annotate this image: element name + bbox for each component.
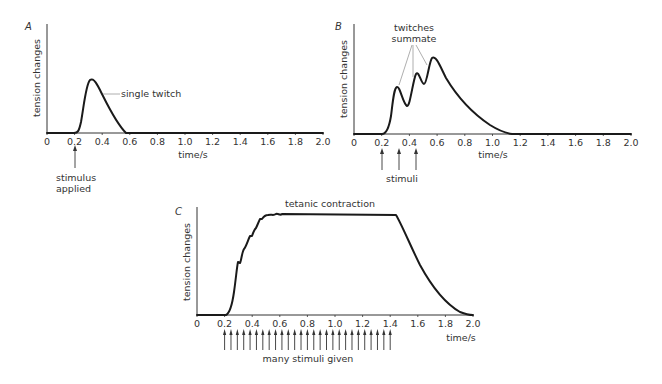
panel-b-stimulus-arrows bbox=[380, 148, 418, 170]
x-tick-label: 1.2 bbox=[205, 136, 220, 147]
x-tick-label: 2.0 bbox=[623, 137, 638, 148]
panel-b-xlabel: time/s bbox=[478, 149, 508, 160]
x-tick-label: 0.8 bbox=[457, 137, 472, 148]
x-tick-label: 1.0 bbox=[485, 137, 500, 148]
panel-c-ylabel: tension changes bbox=[181, 223, 192, 301]
panel-a-stim-label-2: applied bbox=[56, 183, 91, 194]
panel-c-label: C bbox=[175, 206, 182, 217]
panel-c-tetanic-curve bbox=[197, 214, 473, 315]
panel-b-leader-1 bbox=[399, 45, 412, 85]
panel-b-label: B bbox=[335, 21, 342, 32]
panel-c-axes bbox=[197, 207, 473, 315]
panel-a: A tension changes 00.20.40.60.81.01.21.4… bbox=[24, 21, 331, 194]
panel-c-stimulus-arrows bbox=[223, 329, 392, 350]
x-tick-label: 1.4 bbox=[383, 318, 398, 329]
panel-a-annotation: single twitch bbox=[121, 88, 181, 99]
panel-b-xticks: 00.20.40.60.81.01.21.41.61.82.0 bbox=[351, 134, 639, 148]
panel-b-annotation-1: twitches bbox=[394, 22, 434, 33]
x-tick-label: 1.4 bbox=[233, 136, 248, 147]
x-tick-label: 0.4 bbox=[245, 318, 260, 329]
x-tick-label: 0.4 bbox=[95, 136, 110, 147]
x-tick-label: 0.2 bbox=[374, 137, 389, 148]
x-tick-label: 1.0 bbox=[177, 136, 192, 147]
x-tick-label: 0.6 bbox=[430, 137, 445, 148]
x-tick-label: 0.2 bbox=[217, 318, 232, 329]
x-tick-label: 2.0 bbox=[465, 318, 480, 329]
x-tick-label: 0 bbox=[351, 137, 357, 148]
x-tick-label: 2.0 bbox=[315, 136, 330, 147]
x-tick-label: 0.6 bbox=[122, 136, 137, 147]
panel-a-ylabel: tension changes bbox=[31, 39, 42, 117]
panel-a-xlabel: time/s bbox=[178, 149, 208, 160]
panel-b-ylabel: tension changes bbox=[338, 40, 349, 118]
panel-a-stim-label-1: stimulus bbox=[56, 172, 96, 183]
x-tick-label: 1.6 bbox=[568, 137, 583, 148]
panel-c-annotation: tetanic contraction bbox=[285, 198, 375, 209]
panel-c-xticks: 00.20.40.60.81.01.21.41.61.82.0 bbox=[194, 315, 481, 329]
x-tick-label: 1.2 bbox=[513, 137, 528, 148]
x-tick-label: 0 bbox=[194, 318, 200, 329]
x-tick-label: 1.6 bbox=[260, 136, 275, 147]
muscle-contraction-figure: A tension changes 00.20.40.60.81.01.21.4… bbox=[0, 0, 662, 384]
x-tick-label: 0.6 bbox=[272, 318, 287, 329]
panel-b: B tension changes 00.20.40.60.81.01.21.4… bbox=[335, 21, 639, 184]
panel-a-label: A bbox=[24, 21, 32, 32]
x-tick-label: 1.2 bbox=[355, 318, 370, 329]
x-tick-label: 1.4 bbox=[540, 137, 555, 148]
panel-a-stimulus-arrow bbox=[73, 145, 77, 168]
x-tick-label: 1.8 bbox=[438, 318, 453, 329]
panel-b-summation-curve bbox=[354, 58, 631, 134]
panel-a-twitch-curve bbox=[47, 79, 323, 133]
x-tick-label: 1.8 bbox=[596, 137, 611, 148]
panel-c-stim-label: many stimuli given bbox=[263, 353, 354, 364]
x-tick-label: 1.0 bbox=[327, 318, 342, 329]
x-tick-label: 1.6 bbox=[410, 318, 425, 329]
panel-a-axes bbox=[47, 24, 323, 133]
x-tick-label: 0.8 bbox=[300, 318, 315, 329]
panel-b-annotation-2: summate bbox=[392, 33, 437, 44]
panel-c-xlabel: time/s bbox=[446, 332, 476, 343]
panel-c: C tension changes 00.20.40.60.81.01.21.4… bbox=[175, 198, 481, 364]
x-tick-label: 1.8 bbox=[288, 136, 303, 147]
panel-a-xticks: 00.20.40.60.81.01.21.41.61.82.0 bbox=[44, 133, 331, 147]
x-tick-label: 0 bbox=[44, 136, 50, 147]
x-tick-label: 0.4 bbox=[402, 137, 417, 148]
panel-b-leader-3 bbox=[416, 45, 427, 65]
x-tick-label: 0.8 bbox=[150, 136, 165, 147]
panel-b-stim-label: stimuli bbox=[386, 173, 418, 184]
x-tick-label: 0.2 bbox=[67, 136, 82, 147]
